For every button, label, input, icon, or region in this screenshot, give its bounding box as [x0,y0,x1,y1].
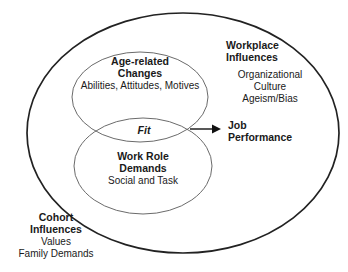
cohort-influences-title-line2: Influences [18,223,93,235]
work-role-demands-title-line1: Work Role [108,150,178,162]
cohort-influences-item-1: Family Demands [18,248,93,260]
workplace-influences-item-1: Culture [238,81,302,93]
age-related-changes-label: Age-related Changes Abilities, Attitudes… [81,55,199,92]
age-related-changes-title-line1: Age-related [81,55,199,67]
work-role-demands-title-line2: Demands [108,162,178,174]
cohort-influences-label: Cohort Influences Values Family Demands [18,211,93,259]
age-related-changes-subtitle: Abilities, Attitudes, Motives [81,80,199,92]
workplace-influences-title: Workplace Influences [226,39,279,64]
fit-label: Fit [138,124,151,136]
cohort-influences-title-line1: Cohort [18,211,93,223]
work-role-demands-subtitle: Social and Task [108,175,178,187]
cohort-influences-item-0: Values [18,236,93,248]
job-performance-title-line2: Performance [228,131,292,143]
job-performance-label: Job Performance [228,119,292,144]
workplace-influences-item-2: Ageism/Bias [238,93,302,105]
arrow-right-icon [190,125,221,134]
workplace-influences-title-line1: Workplace [226,39,279,51]
work-role-demands-label: Work Role Demands Social and Task [108,150,178,187]
age-related-changes-title-line2: Changes [81,67,199,79]
workplace-influences-title-line2: Influences [226,51,279,63]
job-performance-title-line1: Job [228,119,292,131]
workplace-influences-items: Organizational Culture Ageism/Bias [238,69,302,104]
workplace-influences-item-0: Organizational [238,69,302,81]
diagram-canvas: Age-related Changes Abilities, Attitudes… [0,0,348,272]
